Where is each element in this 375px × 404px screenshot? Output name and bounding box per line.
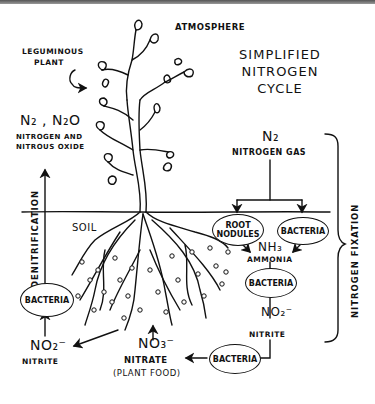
no2-left-name: NITRITE: [22, 357, 59, 366]
atmosphere-label: ATMOSPHERE: [175, 22, 245, 32]
no2-right-formula: NO₂⁻: [261, 305, 293, 319]
title-line-3: CYCLE: [225, 80, 335, 97]
no3-note: (PLANT FOOD): [113, 368, 181, 378]
title-line-1: SIMPLIFIED: [225, 46, 335, 63]
nitrogen-fixation-label: NITROGEN FIXATION: [350, 168, 360, 318]
nh3-name: AMMONIA: [247, 255, 292, 264]
title-line-2: NITROGEN: [225, 63, 335, 80]
n2-formula: N₂: [262, 128, 279, 144]
soil-label: SOIL: [72, 222, 97, 233]
no3-formula: NO₃⁻: [138, 335, 175, 351]
n2-n2o-name-1: NITROGEN AND: [16, 133, 83, 141]
root-nodules-node: ROOT NODULES: [212, 214, 264, 246]
bacteria-fixation-node: BACTERIA: [277, 217, 329, 245]
diagram-title: SIMPLIFIED NITROGEN CYCLE: [225, 46, 335, 97]
denitrification-label: DENITRIFICATION: [30, 178, 40, 288]
nh3-formula: NH₃: [258, 240, 282, 254]
n2-name: NITROGEN GAS: [232, 148, 306, 157]
bacteria-denitrification-node: BACTERIA: [20, 283, 74, 317]
plant-label: PLANT: [34, 58, 64, 67]
bacteria-nitrification-node-1: BACTERIA: [245, 268, 297, 298]
bacteria-nitrification-node-2: BACTERIA: [209, 344, 261, 374]
n2-n2o-formula: N₂ , N₂O: [20, 112, 81, 128]
no2-left-formula: NO₂⁻: [30, 337, 67, 353]
no3-name: NITRATE: [124, 355, 168, 365]
no2-right-name: NITRITE: [249, 330, 286, 339]
leguminous-label: LEGUMINOUS: [22, 47, 84, 56]
n2-n2o-name-2: NITROUS OXIDE: [16, 143, 85, 151]
